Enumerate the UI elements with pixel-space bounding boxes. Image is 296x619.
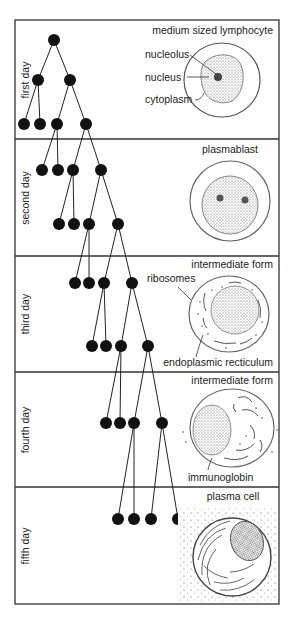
cell-node (112, 513, 124, 525)
day-label-2: second day (19, 170, 31, 224)
panel-plasmablast: plasmablast (190, 143, 270, 241)
cell-node (142, 340, 154, 352)
panel-lymphocyte: medium sized lymphocyte nucleolus nucleu… (145, 24, 273, 117)
label-cytoplasm: cytoplasm (145, 93, 193, 105)
lymphocyte-nucleus (201, 55, 243, 103)
cell-node (112, 218, 124, 230)
plasmablast-nucleus (202, 176, 258, 234)
cell-node (98, 277, 110, 289)
cell-node (128, 417, 140, 429)
cell-node (114, 417, 126, 429)
intermediate-2-nucleus (193, 405, 231, 455)
cell-title-lymphocyte: medium sized lymphocyte (152, 24, 273, 36)
cell-node (100, 340, 112, 352)
label-nucleolus: nucleolus (145, 48, 189, 60)
cell-node (67, 164, 79, 176)
day-labels: first day second day third day fourth da… (19, 61, 31, 565)
cell-node (36, 164, 48, 176)
plasmablast-nucleolus (217, 195, 224, 202)
label-immunoglobin: immunoglobin (188, 471, 254, 483)
cell-node (32, 74, 44, 86)
cell-node (115, 340, 127, 352)
cell-node (95, 164, 107, 176)
cell-node (100, 417, 112, 429)
day-label-3: third day (19, 293, 31, 334)
cell-node (18, 118, 30, 130)
cell-title-plasma-cell: plasma cell (207, 490, 260, 502)
cell-node (53, 218, 65, 230)
intermediate-1-nucleus (211, 286, 259, 334)
cell-node (68, 218, 80, 230)
label-endoplasmic-reticulum: endoplasmic recticulum (163, 356, 273, 368)
day-label-1: first day (19, 61, 31, 99)
cell-node (80, 118, 92, 130)
day-label-4: fourth day (19, 406, 31, 453)
cell-node (128, 513, 140, 525)
label-nucleus: nucleus (145, 71, 181, 83)
cell-node (83, 218, 95, 230)
cell-title-intermediate-1: intermediate form (191, 258, 273, 270)
plasmablast-nucleolus (242, 197, 249, 204)
cell-node (86, 340, 98, 352)
day-label-5: fifth day (19, 527, 31, 565)
cell-node (69, 277, 81, 289)
cell-node (48, 34, 60, 46)
cell-node (145, 513, 157, 525)
cell-node (51, 118, 63, 130)
cell-division-diagram: first day second day third day fourth da… (0, 0, 296, 619)
label-ribosomes: ribosomes (147, 272, 195, 284)
lymphocyte-nucleolus (214, 73, 222, 81)
cell-title-intermediate-2: intermediate form (191, 374, 273, 386)
panel-plasma-cell: plasma cell (178, 490, 278, 603)
cell-node (52, 164, 64, 176)
cell-node (34, 118, 46, 130)
cell-title-plasmablast: plasmablast (202, 143, 258, 155)
panel-intermediate-form-2: intermediate form immunoglobin (182, 374, 278, 483)
panel-intermediate-form-1: intermediate form ribosomes endoplasmic … (147, 258, 273, 368)
cell-node (64, 74, 76, 86)
cell-node (126, 277, 138, 289)
cell-node (83, 277, 95, 289)
cell-node (156, 417, 168, 429)
